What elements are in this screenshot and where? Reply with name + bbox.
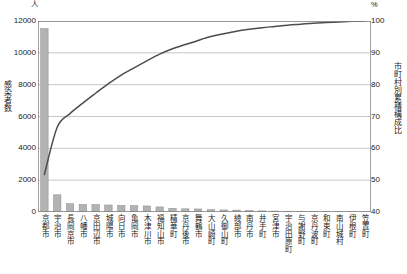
pareto-chart: 人 % 感染者数 市町村別累積構成比 020004000600080001000… [0, 0, 407, 274]
category-label: 与謝野町 [297, 214, 305, 245]
left-tick-label: 8000 [2, 81, 36, 89]
category-label: 京都市 [40, 214, 48, 237]
category-label: 笠置町 [361, 214, 369, 237]
category-label: 精華町 [168, 214, 176, 237]
category-label: 久御山町 [220, 214, 228, 245]
category-label: 京丹波町 [309, 214, 317, 245]
category-label: 京丹後市 [181, 214, 189, 245]
category-label: 南山城村 [335, 214, 343, 245]
category-label: 向日市 [117, 214, 125, 237]
bar [41, 29, 48, 212]
right-tick-label: 60 [371, 144, 397, 152]
category-label: 八幡市 [79, 214, 87, 237]
category-label: 長岡京市 [66, 214, 74, 245]
category-label: 伊根町 [348, 214, 356, 237]
category-label: 井手町 [258, 214, 266, 237]
bar [105, 205, 112, 212]
category-label: 南丹市 [245, 214, 253, 237]
bar [130, 206, 137, 212]
category-label: 宇治田原町 [284, 214, 292, 253]
right-tick-label: 90 [371, 49, 397, 57]
right-tick-label: 40 [371, 208, 397, 216]
category-label: 舞鶴市 [194, 214, 202, 237]
category-label: 宮津市 [271, 214, 279, 237]
bar [156, 207, 163, 212]
category-axis-labels: 京都市宇治市長岡京市八幡市京田辺市城陽市向日市亀岡市木津川市福知山市精華町京丹後… [38, 214, 371, 274]
category-label: 宇治市 [53, 214, 61, 237]
right-axis-ticks: 405060708090100 [371, 0, 401, 274]
left-tick-label: 12000 [2, 17, 36, 25]
category-label: 大山崎町 [207, 214, 215, 245]
left-axis-ticks: 020004000600080001000012000 [0, 0, 36, 274]
category-label: 木津川市 [143, 214, 151, 245]
right-tick-label: 70 [371, 113, 397, 121]
bar [143, 206, 150, 212]
left-tick-label: 6000 [2, 113, 36, 121]
left-tick-label: 0 [2, 208, 36, 216]
bar [79, 204, 86, 212]
left-tick-label: 2000 [2, 176, 36, 184]
category-label: 京田辺市 [92, 214, 100, 245]
cumulative-line [44, 21, 364, 174]
left-tick-label: 4000 [2, 144, 36, 152]
right-tick-label: 80 [371, 81, 397, 89]
bar [92, 205, 99, 212]
bar [118, 205, 125, 212]
plot-area [38, 21, 371, 212]
category-label: 綾部市 [233, 214, 241, 237]
bar [66, 204, 73, 212]
category-label: 城陽市 [104, 214, 112, 237]
plot-svg [38, 21, 371, 212]
left-tick-label: 10000 [2, 49, 36, 57]
category-label: 亀岡市 [130, 214, 138, 237]
category-label: 和束町 [322, 214, 330, 237]
category-label: 福知山市 [156, 214, 164, 245]
bar [54, 195, 61, 212]
right-tick-label: 50 [371, 176, 397, 184]
right-tick-label: 100 [371, 17, 397, 25]
